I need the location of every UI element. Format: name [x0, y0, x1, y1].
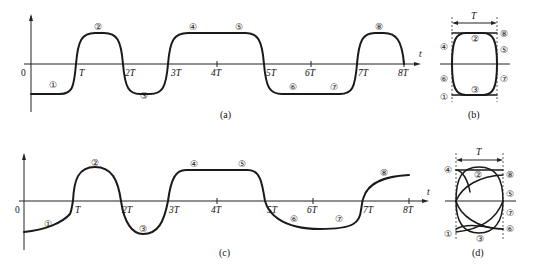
marker-2: ②	[94, 22, 102, 32]
panel-c: 0 t T 2T 3T 4T 5T 6T 7T 8T ① ② ③ ④ ⑤ ⑥ ⑦…	[15, 153, 430, 259]
marker-b-7: ⑦	[500, 74, 508, 84]
caption-c: (c)	[219, 247, 230, 259]
marker-5: ⑤	[235, 22, 243, 32]
tick-c-5T: 5T	[267, 205, 278, 215]
marker-d-5: ⑤	[506, 189, 514, 199]
marker-c-2: ②	[91, 158, 99, 168]
marker-d-3: ③	[476, 234, 484, 244]
t-axis-label: t	[419, 49, 422, 59]
period-arrow-right-icon	[491, 21, 497, 25]
marker-b-3: ③	[471, 85, 479, 95]
caption-d: (d)	[472, 247, 484, 259]
tick-c-8T: 8T	[403, 205, 414, 215]
tick-c-4T: 4T	[211, 205, 222, 215]
marker-7: ⑦	[330, 82, 338, 92]
tick-c-6T: 6T	[307, 205, 318, 215]
t-axis-label-c: t	[427, 187, 430, 197]
panel-d: T ④ ① ② ③ ⑧ ⑤ ⑦ ⑥ (d)	[444, 147, 516, 259]
caption-b: (b)	[468, 109, 480, 121]
marker-6: ⑥	[289, 82, 297, 92]
tick-7T: 7T	[358, 68, 369, 78]
tick-2T: 2T	[125, 68, 136, 78]
period-arrow-left-icon	[452, 21, 458, 25]
marker-d-7: ⑦	[506, 208, 514, 218]
marker-d-8: ⑧	[506, 170, 514, 180]
tick-c-T: T	[75, 205, 81, 215]
origin-label: 0	[21, 68, 26, 78]
marker-3: ③	[140, 91, 148, 101]
period-label-b: T	[471, 11, 477, 21]
marker-c-4: ④	[190, 159, 198, 169]
y-axis-arrow-icon	[29, 14, 33, 21]
origin-label-c: 0	[15, 205, 20, 215]
marker-b-1: ①	[440, 92, 448, 102]
tick-c-7T: 7T	[363, 205, 374, 215]
figure-canvas: 0 t T 2T 3T 4T 5T 6T 7T 8T ① ② ③ ④ ⑤ ⑥ ⑦…	[0, 0, 533, 275]
marker-c-3: ③	[139, 224, 147, 234]
marker-c-5: ⑤	[238, 159, 246, 169]
marker-c-1: ①	[44, 219, 52, 229]
marker-d-2: ②	[474, 170, 482, 180]
marker-d-1: ①	[444, 229, 452, 239]
tick-c-3T: 3T	[168, 205, 180, 215]
tick-5T: 5T	[266, 68, 277, 78]
period-label-d: T	[476, 147, 482, 157]
tick-8T: 8T	[398, 68, 409, 78]
tick-6T: 6T	[305, 68, 316, 78]
marker-b-5: ⑤	[500, 45, 508, 55]
marker-c-8: ⑧	[380, 168, 388, 178]
marker-b-8: ⑧	[500, 29, 508, 39]
marker-8: ⑧	[375, 22, 383, 32]
tick-c-2T: 2T	[122, 205, 133, 215]
marker-1: ①	[49, 80, 57, 90]
marker-c-7: ⑦	[335, 214, 343, 224]
panel-b: T ④ ⑥ ① ② ③ ⑧ ⑤ ⑦ (b)	[440, 11, 510, 121]
marker-4: ④	[189, 22, 197, 32]
tick-4T: 4T	[211, 68, 222, 78]
tick-T: T	[79, 68, 85, 78]
marker-b-6: ⑥	[440, 74, 448, 84]
marker-b-2: ②	[471, 34, 479, 44]
marker-c-6: ⑥	[290, 214, 298, 224]
caption-a: (a)	[220, 109, 231, 121]
marker-d-4: ④	[444, 165, 452, 175]
marker-d-6: ⑥	[506, 224, 514, 234]
tick-3T: 3T	[170, 68, 182, 78]
marker-b-4: ④	[440, 42, 448, 52]
panel-a: 0 t T 2T 3T 4T 5T 6T 7T 8T ① ② ③ ④ ⑤ ⑥ ⑦…	[21, 14, 422, 121]
x-axis-arrow-icon	[414, 62, 421, 66]
